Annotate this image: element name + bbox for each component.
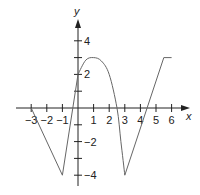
x-tick-label: 3: [122, 114, 128, 126]
y-tick-label: 2: [84, 68, 90, 80]
x-tick-label: 5: [153, 114, 159, 126]
axes: xy−3−2−1123456−4−224: [16, 5, 192, 186]
function-graph: xy−3−2−1123456−4−224: [0, 0, 200, 195]
x-tick-label: −2: [41, 114, 54, 126]
x-tick-label: −1: [56, 114, 69, 126]
series-f-line: [31, 74, 78, 175]
series-f-line: [125, 58, 172, 176]
x-axis-label: x: [185, 110, 192, 122]
x-tick-label: 1: [91, 114, 97, 126]
y-axis-arrow: [75, 19, 81, 28]
y-axis-label: y: [73, 5, 81, 17]
x-tick-label: 2: [106, 114, 112, 126]
y-tick-label: −2: [84, 136, 97, 148]
x-tick-label: 6: [169, 114, 175, 126]
y-tick-label: 4: [84, 35, 90, 47]
y-tick-label: −4: [84, 169, 97, 181]
x-tick-label: −3: [25, 114, 38, 126]
x-tick-label: 4: [137, 114, 143, 126]
